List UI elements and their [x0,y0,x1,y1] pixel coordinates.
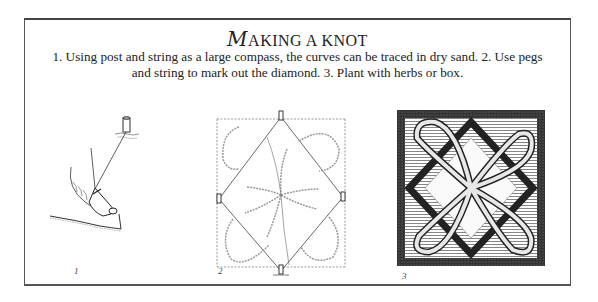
title-initial: M [227,27,248,51]
figure-3-finished-knot [395,108,547,268]
figure-3-label: 3 [402,271,407,281]
caption-text: 1. Using post and string as a large comp… [43,49,552,81]
figure-2-label: 2 [218,266,223,276]
figure-1-label: 1 [74,266,79,276]
knot-garden-drawing [395,108,547,268]
figure-1-hand-compass [45,110,155,240]
hand-bottle-drawing [45,110,155,240]
illustration-panel: MAKING A KNOT 1. Using post and string a… [24,18,571,286]
diamond-pegs-drawing [209,109,349,277]
title-text: AKING A KNOT [248,32,368,49]
figure-2-diamond-layout [209,109,349,277]
panel-title: MAKING A KNOT [25,27,570,51]
